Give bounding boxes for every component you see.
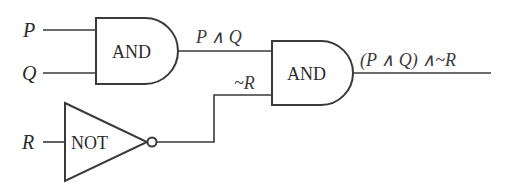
and-gate-2-label: AND xyxy=(287,64,326,84)
not-gate: NOT xyxy=(65,103,157,181)
not-gate-label: NOT xyxy=(71,133,108,153)
and-gate-1: AND xyxy=(96,18,178,84)
wire-not-r xyxy=(157,95,272,142)
logic-circuit-diagram: P Q R AND P ∧ Q NOT ~R AND (P ∧ Q) ∧~R xyxy=(0,0,521,189)
label-p-and-q: P ∧ Q xyxy=(195,27,242,47)
and-gate-2: AND xyxy=(272,41,353,105)
label-output: (P ∧ Q) ∧~R xyxy=(360,50,456,71)
not-gate-bubble-icon xyxy=(148,138,157,147)
and-gate-1-label: AND xyxy=(112,42,151,62)
input-label-r: R xyxy=(21,131,34,153)
input-label-q: Q xyxy=(22,62,37,84)
input-label-p: P xyxy=(22,19,35,41)
label-not-r: ~R xyxy=(234,73,255,93)
